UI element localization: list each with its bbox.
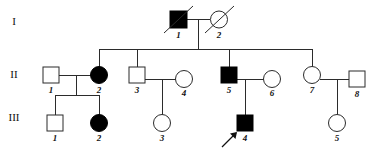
id-label-II6: 6 bbox=[270, 88, 275, 98]
symbol-circle-open-II4[interactable] bbox=[176, 71, 193, 88]
id-label-II2: 2 bbox=[96, 85, 102, 95]
symbol-square-open-II3[interactable] bbox=[129, 67, 145, 83]
id-label-I1: 1 bbox=[176, 30, 181, 40]
generation-labels: I II III bbox=[9, 15, 20, 123]
generation-label-II: II bbox=[10, 68, 18, 80]
individual-II-2[interactable]: 2 bbox=[91, 67, 108, 96]
individual-II-1[interactable]: 1 bbox=[43, 67, 59, 95]
id-label-II7: 7 bbox=[310, 85, 315, 95]
individual-II-3[interactable]: 3 bbox=[129, 67, 145, 95]
individual-II-6[interactable]: 6 bbox=[264, 71, 281, 99]
symbol-square-open-II8[interactable] bbox=[349, 71, 365, 87]
individual-I-1[interactable]: 1 bbox=[164, 6, 193, 40]
id-label-III2: 2 bbox=[96, 133, 102, 143]
individual-II-4[interactable]: 4 bbox=[176, 71, 193, 99]
individual-II-7[interactable]: 7 bbox=[304, 67, 321, 96]
proband-arrow-icon bbox=[222, 132, 237, 147]
symbol-square-open-II1[interactable] bbox=[43, 67, 59, 83]
symbol-circle-open-III3[interactable] bbox=[154, 115, 171, 132]
individual-III-1[interactable]: 1 bbox=[47, 115, 63, 143]
symbol-circle-open-III5[interactable] bbox=[329, 115, 346, 132]
id-label-III3: 3 bbox=[159, 133, 165, 143]
pedigree-chart: I II III bbox=[0, 0, 378, 162]
individual-I-2[interactable]: 2 bbox=[205, 6, 234, 40]
individual-III-4[interactable]: 4 bbox=[222, 115, 253, 147]
symbol-circle-filled-II2[interactable] bbox=[91, 67, 108, 84]
id-label-III4: 4 bbox=[242, 133, 248, 143]
id-label-II4: 4 bbox=[181, 88, 187, 98]
individual-III-3[interactable]: 3 bbox=[154, 115, 171, 144]
id-label-II1: 1 bbox=[49, 85, 54, 95]
generation-label-I: I bbox=[12, 15, 16, 27]
symbol-circle-open-II7[interactable] bbox=[304, 67, 321, 84]
symbol-square-filled-III4[interactable] bbox=[237, 115, 253, 131]
id-label-II8: 8 bbox=[355, 89, 360, 99]
id-label-II3: 3 bbox=[134, 85, 140, 95]
individual-III-2[interactable]: 2 bbox=[91, 115, 108, 144]
individual-II-5[interactable]: 5 bbox=[221, 67, 237, 95]
individual-II-8[interactable]: 8 bbox=[349, 71, 365, 99]
symbol-circle-open-II6[interactable] bbox=[264, 71, 281, 88]
pedigree-canvas: I II III bbox=[0, 0, 378, 162]
individual-III-5[interactable]: 5 bbox=[329, 115, 346, 144]
symbol-circle-filled-III2[interactable] bbox=[91, 115, 108, 132]
id-label-III1: 1 bbox=[53, 133, 58, 143]
symbol-square-open-III1[interactable] bbox=[47, 115, 63, 131]
generation-label-III: III bbox=[9, 111, 20, 123]
id-label-I2: 2 bbox=[216, 30, 222, 40]
id-label-II5: 5 bbox=[227, 85, 232, 95]
id-label-III5: 5 bbox=[335, 133, 340, 143]
symbol-square-filled-II5[interactable] bbox=[221, 67, 237, 83]
